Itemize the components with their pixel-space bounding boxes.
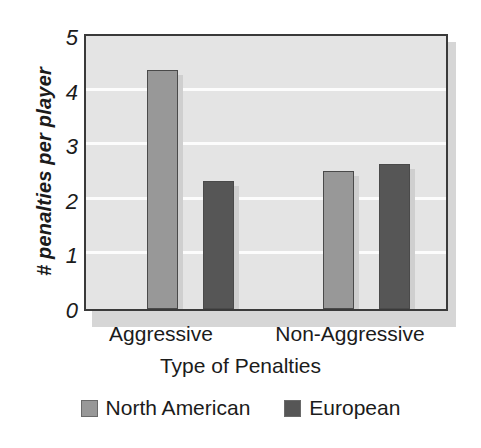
y-tick-label-2: 2 bbox=[50, 191, 78, 213]
legend-item-north-american[interactable]: North American bbox=[81, 396, 251, 420]
y-tick-label-4: 4 bbox=[50, 82, 78, 104]
bar-aggressive-european bbox=[203, 181, 234, 309]
bar-aggressive-north-american bbox=[147, 70, 178, 309]
bar-non-aggressive-north-american bbox=[323, 171, 354, 309]
x-axis-label: Type of Penalties bbox=[0, 354, 481, 378]
legend-swatch-north-american bbox=[81, 400, 98, 417]
y-tick-label-5: 5 bbox=[50, 27, 78, 49]
x-tick-label-non-aggressive: Non-Aggressive bbox=[250, 322, 450, 346]
legend-item-european[interactable]: European bbox=[284, 396, 400, 420]
y-tick-label-3: 3 bbox=[50, 136, 78, 158]
bar-chart-figure: # penalties per player 012345 Aggressive… bbox=[0, 0, 481, 448]
legend-swatch-european bbox=[284, 400, 301, 417]
legend-label: North American bbox=[106, 396, 251, 420]
x-tick-label-aggressive: Aggressive bbox=[96, 322, 226, 346]
y-tick-label-1: 1 bbox=[50, 245, 78, 267]
plot-area bbox=[84, 34, 448, 311]
legend-label: European bbox=[309, 396, 400, 420]
y-tick-label-0: 0 bbox=[50, 300, 78, 322]
bar-non-aggressive-european bbox=[379, 164, 410, 309]
chart-legend: North AmericanEuropean bbox=[0, 396, 481, 420]
gridline bbox=[86, 142, 446, 145]
y-axis-ticks: 012345 bbox=[46, 34, 78, 311]
gridline bbox=[86, 88, 446, 91]
